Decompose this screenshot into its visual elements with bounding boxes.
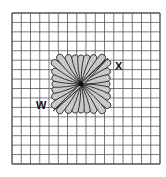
- stitch-diagram: X W: [0, 0, 166, 177]
- label-w: W: [36, 99, 47, 111]
- daisy-flower-motif: [51, 54, 111, 114]
- label-x: X: [115, 60, 123, 72]
- center-knot: [79, 82, 84, 87]
